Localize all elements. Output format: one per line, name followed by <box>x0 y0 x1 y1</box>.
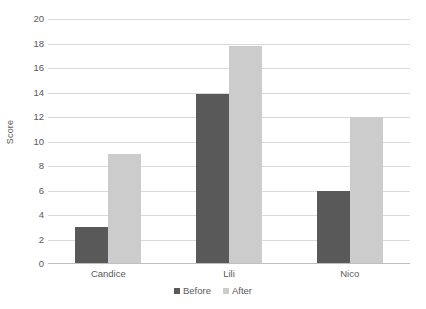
x-axis-tick-lili: Lili <box>169 266 290 282</box>
y-axis-tick-2: 2 <box>39 235 44 245</box>
legend-swatch-after <box>223 288 229 294</box>
bar-candice-before[interactable] <box>75 227 108 264</box>
legend-label-before: Before <box>183 286 211 296</box>
y-axis-tick-14: 14 <box>33 88 44 98</box>
bars-layer <box>48 19 410 264</box>
x-axis-line <box>48 263 410 264</box>
y-axis-tick-20: 20 <box>33 14 44 24</box>
bar-chart: Score 20181614121086420 CandiceLiliNico … <box>0 0 426 309</box>
bar-group-lili <box>169 19 290 264</box>
y-axis-tick-16: 16 <box>33 63 44 73</box>
legend-item-before[interactable]: Before <box>174 286 211 296</box>
legend-swatch-before <box>174 288 180 294</box>
y-axis-tick-6: 6 <box>39 186 44 196</box>
x-axis-tick-candice: Candice <box>48 266 169 282</box>
x-axis-tick-nico: Nico <box>289 266 410 282</box>
bar-group-nico <box>289 19 410 264</box>
y-axis-tick-labels: 20181614121086420 <box>18 19 44 264</box>
y-axis-tick-10: 10 <box>33 137 44 147</box>
y-axis-tick-4: 4 <box>39 210 44 220</box>
legend-label-after: After <box>232 286 252 296</box>
bar-candice-after[interactable] <box>108 154 141 264</box>
x-axis-tick-labels: CandiceLiliNico <box>48 266 410 282</box>
plot-area <box>48 19 410 264</box>
y-axis-title: Score <box>0 0 20 264</box>
y-axis-tick-12: 12 <box>33 112 44 122</box>
bar-nico-before[interactable] <box>317 191 350 265</box>
bar-lili-after[interactable] <box>229 46 262 264</box>
y-axis-tick-8: 8 <box>39 161 44 171</box>
legend-item-after[interactable]: After <box>223 286 252 296</box>
y-axis-tick-0: 0 <box>39 259 44 269</box>
chart-legend: BeforeAfter <box>0 284 426 298</box>
bar-group-candice <box>48 19 169 264</box>
bar-nico-after[interactable] <box>350 117 383 264</box>
y-axis-tick-18: 18 <box>33 39 44 49</box>
y-axis-title-label: Score <box>5 120 15 145</box>
bar-lili-before[interactable] <box>196 94 229 264</box>
